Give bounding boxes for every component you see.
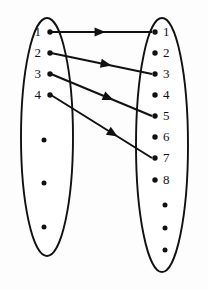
right-node-dot-2 [152,50,157,55]
right-node-label-1: 1 [163,24,170,39]
arrow-4-to-7-head [106,127,118,137]
mapping-svg: 1234 12345678 [0,0,208,290]
right-node-label-4: 4 [163,87,170,102]
right-node-dot-3 [152,71,157,76]
left-node-label-1: 1 [35,24,42,39]
right-node-label-3: 3 [163,66,170,81]
right-node-label-6: 6 [163,129,170,144]
left-node-label-2: 2 [35,45,42,60]
arrow-1-to-1-head [95,27,106,36]
right-node-dot-7 [152,155,157,160]
right-node-dot-8 [152,177,157,182]
left-node-label-4: 4 [35,87,42,102]
left-ellipsis-dot-3 [42,225,47,230]
right-node-label-7: 7 [163,150,170,165]
right-node-label-5: 5 [163,108,170,123]
right-set-ellipse [136,18,188,272]
right-node-label-2: 2 [163,45,170,60]
right-node-dot-5 [152,113,157,118]
arrow-3-to-5-head [102,92,114,100]
right-set-ellipse-group [136,18,188,272]
right-node-dot-1 [152,29,157,34]
left-node-dot-4 [47,92,52,97]
mapping-diagram: 1234 12345678 [0,0,208,290]
right-ellipsis-dot-2 [163,226,168,231]
right-node-dot-4 [152,92,157,97]
right-ellipsis-dot-1 [163,203,168,208]
left-node-dot-3 [47,71,52,76]
right-node-dot-6 [152,134,157,139]
left-set-ellipse-group [21,18,73,256]
left-ellipsis-dot-2 [42,181,47,186]
right-node-label-8: 8 [163,172,170,187]
left-ellipsis-dot-1 [42,138,47,143]
arrow-2-to-3-head [100,59,112,68]
left-set-ellipse [21,18,73,256]
left-node-label-3: 3 [35,66,42,81]
left-node-dot-1 [47,29,52,34]
right-ellipsis-dot-3 [163,248,168,253]
left-node-dot-2 [47,50,52,55]
